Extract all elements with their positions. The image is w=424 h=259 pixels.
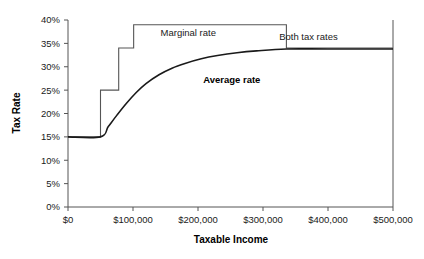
x-axis-tick-labels: $0$100,000$200,000$300,000$400,000$500,0… (63, 214, 413, 225)
y-axis-tick-labels: 0%5%10%15%20%25%30%35%40% (41, 14, 61, 212)
x-tick-label: $0 (63, 214, 74, 225)
y-tick-label: 5% (46, 178, 60, 189)
annotation-both-tax-rates: Both tax rates (279, 31, 338, 42)
y-tick-label: 20% (41, 108, 61, 119)
y-tick-label: 15% (41, 131, 61, 142)
x-tick-label: $100,000 (113, 214, 153, 225)
y-tick-label: 10% (41, 155, 61, 166)
y-tick-label: 35% (41, 38, 61, 49)
y-tick-label: 40% (41, 14, 61, 25)
y-tick-label: 25% (41, 85, 61, 96)
y-tick-label: 30% (41, 61, 61, 72)
x-tick-label: $300,000 (243, 214, 283, 225)
x-axis-ticks (68, 207, 393, 211)
tax-rate-chart: 0%5%10%15%20%25%30%35%40% $0$100,000$200… (0, 0, 424, 259)
chart-canvas: 0%5%10%15%20%25%30%35%40% $0$100,000$200… (0, 0, 424, 259)
y-axis-ticks (64, 20, 68, 207)
x-tick-label: $500,000 (373, 214, 413, 225)
x-tick-label: $200,000 (178, 214, 218, 225)
annotation-marginal-rate: Marginal rate (161, 27, 216, 38)
y-tick-label: 0% (46, 201, 60, 212)
annotation-average-rate: Average rate (203, 74, 260, 85)
y-axis-title: Tax Rate (11, 92, 22, 133)
chart-annotations: Marginal rateAverage rateBoth tax rates (161, 27, 338, 85)
x-axis-title: Taxable Income (194, 234, 269, 245)
x-tick-label: $400,000 (308, 214, 348, 225)
series-line-average-rate (68, 49, 393, 138)
